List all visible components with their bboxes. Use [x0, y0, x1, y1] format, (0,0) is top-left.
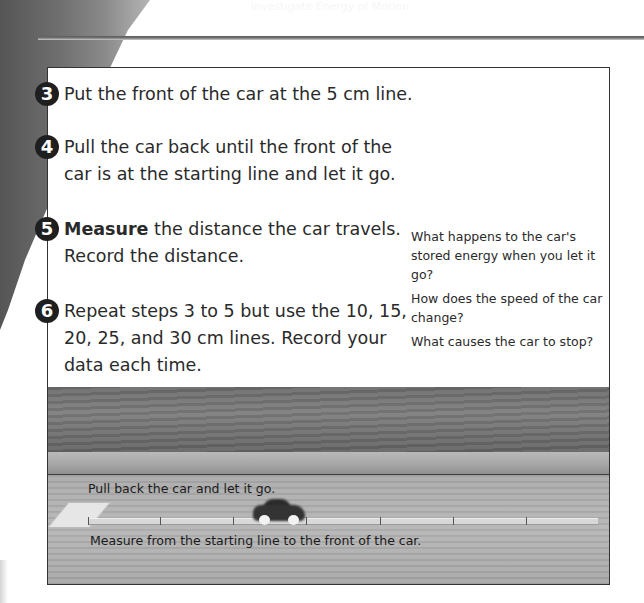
- step-number-3-icon: 3: [35, 82, 59, 106]
- photo-caption-bottom: Measure from the starting line to the fr…: [90, 533, 421, 548]
- question-3: What causes the car to stop?: [411, 332, 606, 351]
- step-number-4-icon: 4: [35, 135, 59, 159]
- wood-ledge: [48, 452, 609, 475]
- step-number-5-icon: 5: [35, 217, 59, 241]
- tape-tick: [526, 517, 527, 525]
- wood-wall: [48, 387, 609, 452]
- toy-car-icon: [253, 499, 305, 525]
- step-text-line-2: 20, 25, and 30 cm lines. Record your: [64, 325, 407, 352]
- measuring-tape: [88, 518, 598, 525]
- tape-tick: [306, 517, 307, 525]
- header-rule: [38, 36, 644, 40]
- tape-tick: [160, 517, 161, 525]
- tape-tick: [380, 517, 381, 525]
- step-6: 6 Repeat steps 3 to 5 but use the 10, 15…: [83, 298, 407, 379]
- step-text: Put the front of the car at the 5 cm lin…: [64, 81, 413, 108]
- question-1: What happens to the car's stored energy …: [411, 227, 606, 284]
- procedure-box: 3 Put the front of the car at the 5 cm l…: [47, 67, 610, 585]
- step-text-line-1: Repeat steps 3 to 5 but use the 10, 15,: [64, 298, 407, 325]
- page-heading: Investigate Energy of Motion: [200, 0, 460, 12]
- step-text-line-2: Record the distance.: [64, 243, 401, 270]
- step-text-line-1: Pull the car back until the front of the: [64, 134, 396, 161]
- tape-tick: [453, 517, 454, 525]
- tape-tick: [88, 517, 89, 525]
- side-tab-lower-decoration: [0, 560, 8, 603]
- tape-tick: [233, 517, 234, 525]
- step-keyword: Measure: [64, 219, 148, 239]
- step-4: 4 Pull the car back until the front of t…: [83, 134, 396, 188]
- photo-caption-top: Pull back the car and let it go.: [88, 481, 275, 496]
- question-2: How does the speed of the car change?: [411, 289, 606, 327]
- guiding-questions: What happens to the car's stored energy …: [411, 227, 606, 356]
- car-track-photo: Pull back the car and let it go. Measure…: [48, 387, 609, 584]
- step-text-line-2: car is at the starting line and let it g…: [64, 161, 396, 188]
- step-text-line-3: data each time.: [64, 352, 407, 379]
- step-number-6-icon: 6: [35, 299, 59, 323]
- step-5: 5 Measure the distance the car travels. …: [83, 216, 401, 270]
- step-text-line-1: the distance the car travels.: [148, 219, 400, 239]
- step-3: 3 Put the front of the car at the 5 cm l…: [83, 81, 413, 108]
